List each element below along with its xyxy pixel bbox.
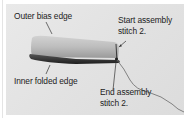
annotated-photo: Outer bias edge Start assembly stitch 2.… bbox=[6, 4, 184, 115]
label-inner-folded-edge: Inner folded edge bbox=[14, 76, 78, 86]
margin-rule bbox=[2, 0, 3, 118]
label-outer-bias-edge: Outer bias edge bbox=[14, 11, 72, 21]
label-end-assembly-line2: stitch 2. bbox=[100, 98, 128, 108]
label-start-assembly-line1: Start assembly bbox=[118, 15, 172, 25]
label-end-assembly-line1: End assembly bbox=[100, 87, 151, 97]
label-start-assembly-line2: stitch 2. bbox=[118, 26, 146, 36]
